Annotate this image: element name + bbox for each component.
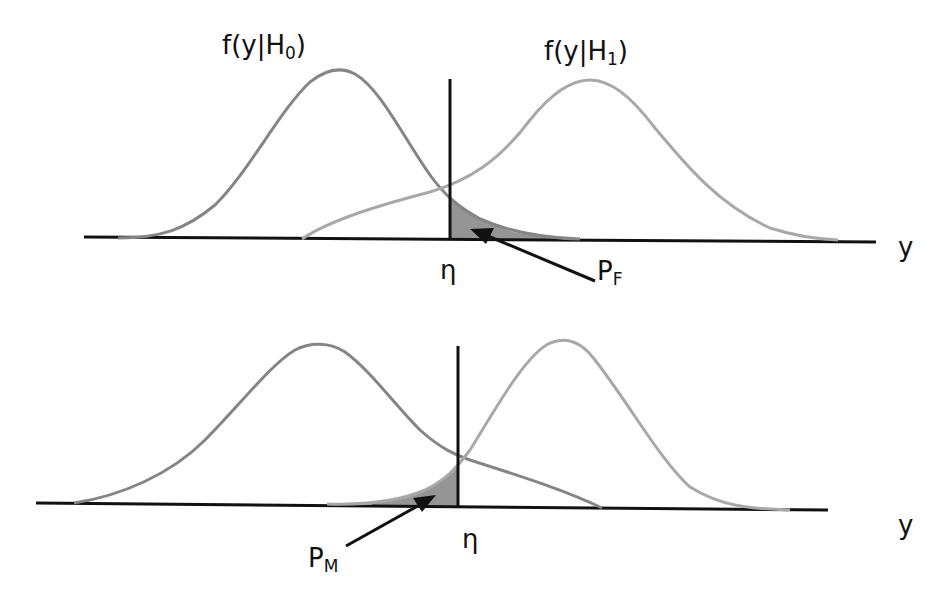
bottom-threshold-label: η	[462, 526, 478, 552]
detection-diagram	[0, 0, 949, 603]
top-h0-curve	[118, 70, 580, 239]
h0-density-label: f(y|H0)	[222, 32, 306, 62]
top-threshold-label: η	[440, 257, 456, 283]
h1-density-label: f(y|H1)	[544, 38, 628, 68]
h0-label-subscript: 0	[285, 43, 296, 63]
pf-label: PF	[597, 258, 622, 288]
bottom-h1-curve	[327, 340, 790, 510]
h1-label-base: f(y|H	[544, 36, 607, 66]
bottom-axis-label: y	[898, 512, 913, 538]
bottom-panel	[36, 340, 828, 546]
h0-label-close: )	[296, 30, 306, 60]
top-panel	[84, 70, 876, 281]
pm-label-subscript: M	[324, 556, 339, 576]
pm-label-base: P	[308, 543, 324, 573]
false-alarm-shaded-area	[450, 199, 580, 239]
pf-label-subscript: F	[613, 269, 623, 289]
pm-label: PM	[308, 545, 338, 575]
pm-arrow-shaft	[346, 503, 423, 546]
h1-label-close: )	[618, 36, 628, 66]
h1-label-subscript: 1	[607, 49, 618, 69]
pf-arrow-shaft	[488, 236, 595, 281]
top-axis-label: y	[898, 234, 913, 260]
pf-label-base: P	[597, 256, 613, 286]
h0-label-base: f(y|H	[222, 30, 285, 60]
